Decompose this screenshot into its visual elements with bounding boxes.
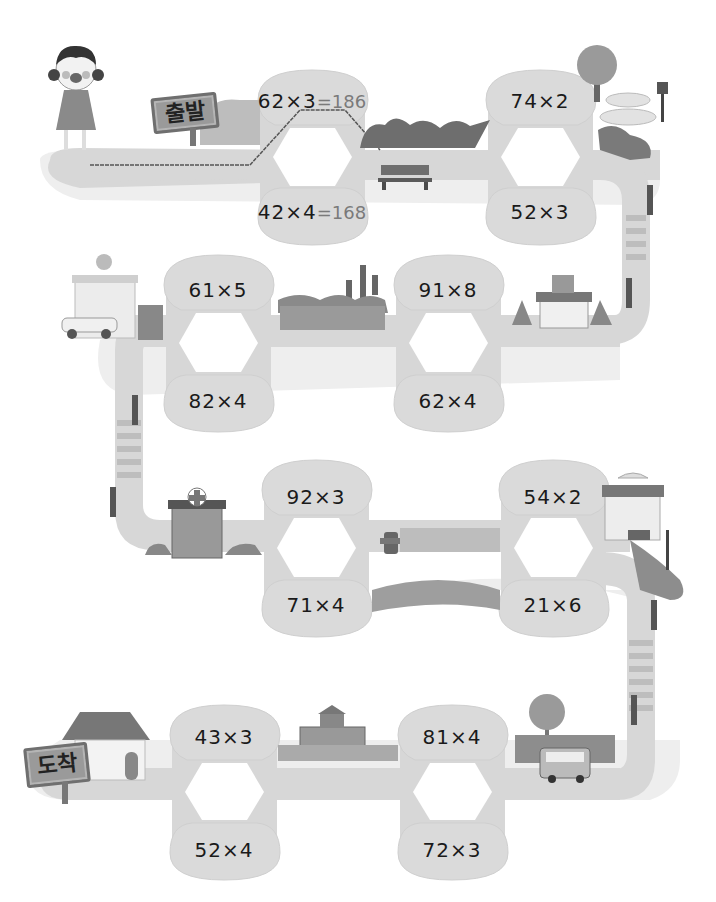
problem-r3-p2-top: 54×2: [524, 485, 583, 509]
problem-r2-p2-bottom: 62×4: [419, 389, 478, 413]
girl-character-icon: [46, 40, 110, 160]
end-sign-post: [62, 782, 68, 804]
shop-icon: [536, 275, 592, 328]
problem-r2-p2-top: 91×8: [419, 278, 478, 302]
problem-r3-p1-bottom: 71×4: [287, 593, 346, 617]
problem-r2-p1-top: 61×5: [189, 278, 248, 302]
problem-r1-p2-bottom: 52×3: [511, 200, 570, 224]
traffic-light-icon: [631, 695, 637, 725]
problem-r3-p2-bottom: 21×6: [524, 593, 583, 617]
answer-text: =186: [317, 91, 366, 112]
pine-tree-icon: [590, 300, 612, 325]
traffic-light-icon: [132, 395, 138, 425]
problem-r4-p2-top: 81×4: [423, 725, 482, 749]
cafe-building-icon: [602, 473, 664, 540]
street-lamp-icon: [666, 530, 669, 570]
street-lamp-icon: [657, 82, 668, 122]
problem-r4-p1-bottom: 52×4: [195, 838, 254, 862]
multiplication-maze: 출발 도착 62×3=186 42×4=168 74×2 52×3 61×5 8…: [0, 0, 716, 902]
fence-icon: [278, 745, 398, 761]
traffic-light-icon: [651, 600, 657, 630]
bus-icon: [540, 748, 590, 783]
problem-r2-p1-bottom: 82×4: [189, 389, 248, 413]
answer-text: =168: [317, 202, 366, 223]
problem-r1-p2-top: 74×2: [511, 89, 570, 113]
problem-r4-p2-bottom: 72×3: [423, 838, 482, 862]
problem-r4-p1-top: 43×3: [195, 725, 254, 749]
pine-tree-icon: [512, 300, 532, 325]
fence-icon: [400, 528, 500, 552]
start-sign-post: [190, 128, 196, 146]
problem-r1-p1-top: 62×3=186: [258, 89, 366, 113]
fence-icon: [280, 306, 385, 330]
hospital-icon: [168, 488, 226, 558]
traffic-light-icon: [110, 487, 116, 517]
bushes-icon: [360, 119, 490, 149]
traffic-light-icon: [626, 278, 632, 308]
traffic-light-icon: [647, 185, 653, 215]
grass-icon: [372, 580, 500, 612]
problem-r1-p1-bottom: 42×4=168: [258, 200, 366, 224]
fountain-icon: [600, 93, 656, 125]
start-sign: 출발: [150, 92, 219, 135]
end-sign: 도착: [23, 742, 91, 788]
problem-r3-p1-top: 92×3: [287, 485, 346, 509]
